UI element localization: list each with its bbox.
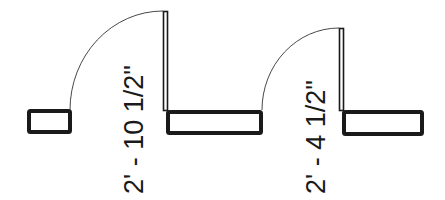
wall-segment-right [344, 112, 422, 134]
door-2-width-label: 2' - 4 1/2" [301, 80, 331, 194]
door-1-width-label: 2' - 10 1/2" [119, 65, 149, 194]
wall-segment-left [29, 111, 70, 132]
door-2-leaf [340, 29, 344, 111]
floor-plan-diagram: 2' - 10 1/2" 2' - 4 1/2" [0, 0, 445, 200]
door-1: 2' - 10 1/2" [70, 11, 168, 194]
door-1-swing-arc [70, 11, 163, 110]
door-2: 2' - 4 1/2" [262, 28, 344, 194]
wall-segment-middle [168, 112, 261, 133]
door-1-leaf [164, 12, 168, 111]
